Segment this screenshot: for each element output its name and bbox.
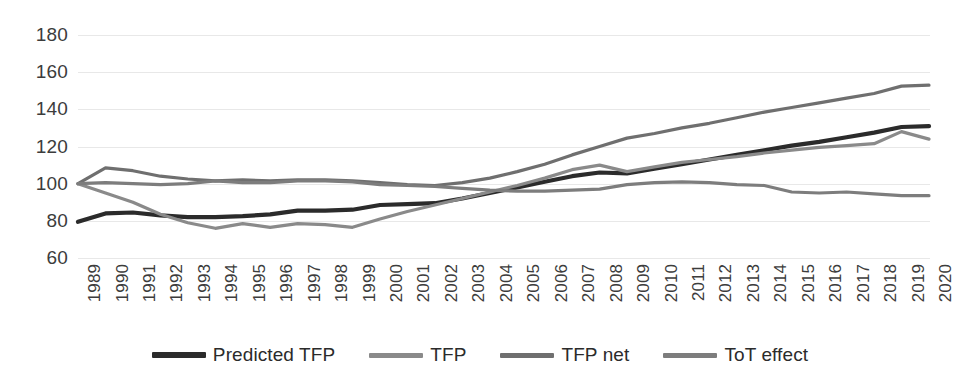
plot-area [78, 35, 930, 258]
legend-swatch-icon [369, 353, 423, 358]
legend-label: ToT effect [724, 344, 808, 366]
x-tick-label: 2017 [854, 264, 874, 302]
legend-label: Predicted TFP [213, 344, 335, 366]
x-tick-label: 2009 [634, 264, 654, 302]
x-tick-label: 1992 [167, 264, 187, 302]
x-tick-label: 2010 [662, 264, 682, 302]
x-tick-label: 2006 [552, 264, 572, 302]
x-tick-label: 2012 [716, 264, 736, 302]
y-tick-label: 100 [36, 173, 68, 195]
x-tick-label: 2004 [497, 264, 517, 302]
x-axis: 1989199019911992199319941995199619971998… [78, 262, 930, 334]
x-tick-label: 2015 [799, 264, 819, 302]
y-tick-label: 120 [36, 136, 68, 158]
y-tick-label: 180 [36, 24, 68, 46]
y-axis: 6080100120140160180 [0, 35, 68, 258]
x-tick-label: 2001 [414, 264, 434, 302]
x-tick-label: 2019 [909, 264, 929, 302]
x-tick-label: 2000 [387, 264, 407, 302]
x-tick-label: 1995 [250, 264, 270, 302]
x-tick-label: 2020 [936, 264, 956, 302]
x-tick-label: 2016 [826, 264, 846, 302]
y-tick-label: 160 [36, 61, 68, 83]
x-tick-label: 2003 [469, 264, 489, 302]
x-tick-label: 2018 [881, 264, 901, 302]
x-tick-label: 2013 [744, 264, 764, 302]
y-tick-label: 140 [36, 98, 68, 120]
x-tick-label: 1997 [305, 264, 325, 302]
x-tick-label: 1991 [140, 264, 160, 302]
y-tick-label: 60 [46, 247, 68, 269]
gridline-60 [78, 258, 930, 259]
series-line-tfp-net [78, 85, 929, 185]
y-tick-label: 80 [46, 210, 68, 232]
legend-label: TFP net [561, 344, 629, 366]
legend-item-predicted-tfp[interactable]: Predicted TFP [152, 344, 335, 366]
x-tick-label: 2005 [524, 264, 544, 302]
x-tick-label: 1994 [222, 264, 242, 302]
line-chart: 6080100120140160180 19891990199119921993… [0, 0, 960, 383]
legend-label: TFP [430, 344, 466, 366]
x-tick-label: 1990 [113, 264, 133, 302]
x-tick-label: 1999 [360, 264, 380, 302]
legend-item-tfp-net[interactable]: TFP net [500, 344, 629, 366]
legend-swatch-icon [500, 353, 554, 358]
x-tick-label: 2011 [689, 264, 709, 301]
legend-item-tfp[interactable]: TFP [369, 344, 466, 366]
legend-swatch-icon [663, 353, 717, 358]
x-tick-label: 1998 [332, 264, 352, 302]
chart-legend: Predicted TFPTFPTFP netToT effect [0, 340, 960, 370]
x-tick-label: 1996 [277, 264, 297, 302]
x-tick-label: 2014 [771, 264, 791, 302]
x-tick-label: 2007 [579, 264, 599, 302]
x-tick-label: 2002 [442, 264, 462, 302]
x-tick-label: 1993 [195, 264, 215, 302]
series-lines [78, 35, 930, 258]
legend-swatch-icon [152, 352, 206, 358]
legend-item-tot-effect[interactable]: ToT effect [663, 344, 808, 366]
x-tick-label: 2008 [607, 264, 627, 302]
x-tick-label: 1989 [85, 264, 105, 302]
